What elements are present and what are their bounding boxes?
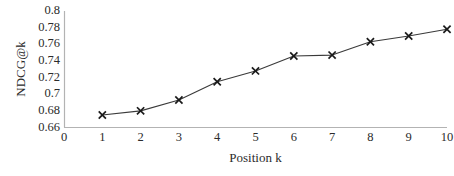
x-tick-label: 3 — [166, 130, 192, 144]
x-tick-label: 6 — [281, 130, 307, 144]
x-tick-label: 0 — [51, 130, 77, 144]
x-axis-title: Position k — [64, 150, 447, 166]
x-tick-label: 2 — [128, 130, 154, 144]
x-tick-label: 7 — [319, 130, 345, 144]
x-tick-label: 1 — [89, 130, 115, 144]
y-axis-title: NDCG@k — [12, 11, 30, 127]
x-tick-label: 4 — [204, 130, 230, 144]
x-tick-label: 9 — [396, 130, 422, 144]
x-tick-label: 10 — [434, 130, 454, 144]
ndcg-line-chart: 0.660.680.70.720.740.760.780.8 012345678… — [0, 0, 454, 176]
x-tick-label: 5 — [243, 130, 269, 144]
x-tick-label: 8 — [357, 130, 383, 144]
